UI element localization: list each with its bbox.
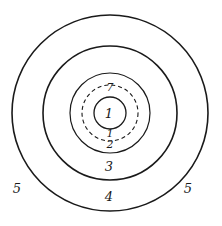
label-top-7: 7: [107, 81, 114, 94]
concentric-circles-diagram: 17123455: [0, 0, 222, 226]
label-5-left: 5: [13, 181, 21, 196]
label-center-1: 1: [105, 106, 113, 121]
label-4: 4: [104, 189, 113, 204]
label-5-right: 5: [184, 181, 192, 196]
label-bottom-2: 2: [106, 138, 114, 151]
label-3: 3: [105, 159, 113, 174]
